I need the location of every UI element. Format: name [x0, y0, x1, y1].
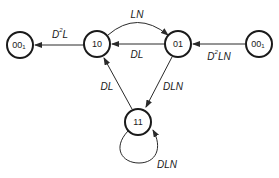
label-edge-00-to-01: D2LN — [207, 49, 231, 62]
node-10: 10 — [84, 31, 110, 57]
svg-text:11: 11 — [133, 117, 142, 127]
node-01: 01 — [165, 31, 191, 57]
label-edge-10-to-01: LN — [131, 9, 145, 20]
edge-10-to-01 — [108, 23, 168, 36]
node-00-left: 001 — [7, 32, 33, 58]
node-00-right: 001 — [246, 31, 272, 57]
label-edge-01-to-11: DLN — [163, 81, 184, 92]
label-edge-10-to-00: D2L — [52, 27, 68, 40]
label-edge-11-to-10: DL — [101, 81, 114, 92]
label-edge-11-self: DLN — [157, 159, 178, 170]
state-diagram: 001 10 01 001 11 D2L LN DL D2LN DL DLN D… — [0, 0, 279, 178]
svg-text:01: 01 — [173, 39, 183, 49]
svg-text:10: 10 — [92, 39, 102, 49]
label-edge-01-to-10: DL — [131, 49, 144, 60]
node-11: 11 — [125, 109, 151, 135]
